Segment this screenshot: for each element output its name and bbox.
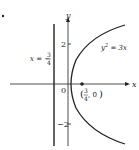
focus-point xyxy=(80,82,84,86)
focus-paren-close: ) xyxy=(99,88,103,99)
curve-label: y2 = 3x xyxy=(100,42,127,52)
x-axis xyxy=(10,82,130,86)
parabola-diagram: x y 2 −2 0 x = − 3 4 y2 = 3x ( 3 4 , 0 ) xyxy=(0,0,139,150)
x-axis-label: x xyxy=(132,80,137,89)
focus-label-rest: , 0 xyxy=(88,91,97,99)
directrix-label-den: 4 xyxy=(47,59,51,66)
y-axis-label: y xyxy=(65,11,71,20)
x-axis-arrow-icon xyxy=(125,82,130,86)
item-marker xyxy=(2,15,4,17)
origin-label: 0 xyxy=(61,86,66,95)
parabola-curve xyxy=(71,25,125,144)
directrix-label-num: 3 xyxy=(47,51,51,58)
tick-label-neg: −2 xyxy=(57,120,69,129)
tick-label-pos: 2 xyxy=(61,40,66,49)
